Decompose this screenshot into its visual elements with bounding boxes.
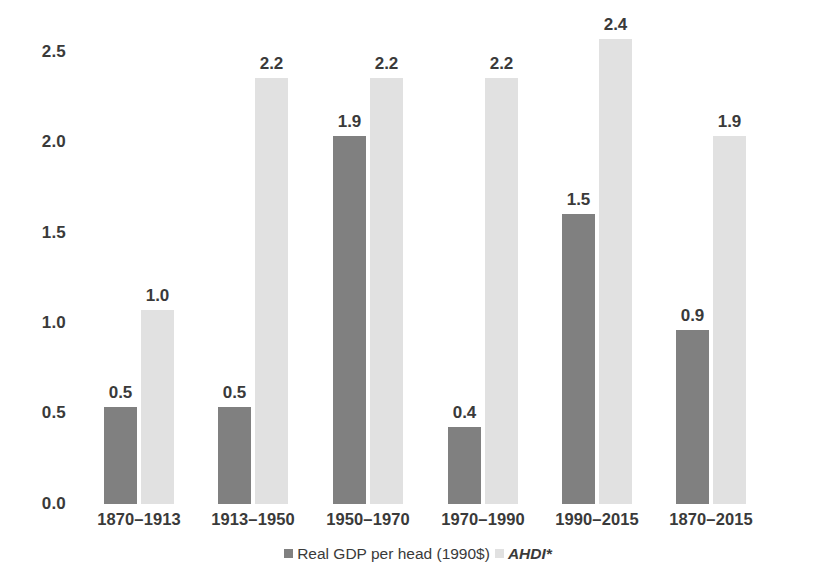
bar-value-label: 2.4 (586, 16, 646, 33)
bar-gdp[interactable] (333, 136, 366, 504)
y-tick-label: 0.0 (0, 495, 66, 512)
bar-gdp[interactable] (104, 407, 137, 504)
bar-value-label: 2.2 (472, 55, 532, 72)
bar-ahdi[interactable] (485, 78, 518, 504)
bar-gdp[interactable] (676, 330, 709, 504)
y-tick-label: 0.5 (0, 404, 66, 421)
bar-value-label: 2.2 (357, 55, 417, 72)
bar-group: 0.91.9 (676, 20, 746, 504)
bar-ahdi[interactable] (599, 39, 632, 504)
legend-swatch-icon (284, 549, 293, 558)
bar-chart: 2.5 2.0 1.5 1.0 0.5 0.0 0.51.00.52.21.92… (0, 0, 836, 577)
y-tick-label: 1.0 (0, 314, 66, 331)
y-tick-label: 1.5 (0, 224, 66, 241)
bar-group: 1.92.2 (333, 20, 403, 504)
y-tick-label: 2.5 (0, 43, 66, 60)
bar-group: 0.42.2 (448, 20, 518, 504)
legend-label: AHDI* (508, 546, 552, 562)
bar-value-label: 2.2 (242, 55, 302, 72)
x-category-label: 1870–2015 (641, 511, 781, 528)
legend-swatch-icon (495, 549, 504, 558)
legend-label: Real GDP per head (1990$) (297, 546, 490, 562)
plot-area: 0.51.00.52.21.92.20.42.21.52.40.91.9 (78, 20, 826, 504)
bar-ahdi[interactable] (141, 310, 174, 504)
bar-gdp[interactable] (218, 407, 251, 504)
chart-legend: Real GDP per head (1990$) AHDI* (0, 546, 836, 562)
y-tick-label: 2.0 (0, 133, 66, 150)
bar-group: 0.51.0 (104, 20, 174, 504)
bar-gdp[interactable] (448, 427, 481, 504)
bar-group: 0.52.2 (218, 20, 288, 504)
bar-value-label: 1.9 (700, 113, 760, 130)
bar-ahdi[interactable] (370, 78, 403, 504)
bar-ahdi[interactable] (255, 78, 288, 504)
bar-value-label: 1.0 (128, 287, 188, 304)
legend-item-gdp[interactable]: Real GDP per head (1990$) (284, 546, 490, 562)
bar-ahdi[interactable] (713, 136, 746, 504)
bar-group: 1.52.4 (562, 20, 632, 504)
bar-gdp[interactable] (562, 214, 595, 504)
legend-item-ahdi[interactable]: AHDI* (495, 546, 552, 562)
